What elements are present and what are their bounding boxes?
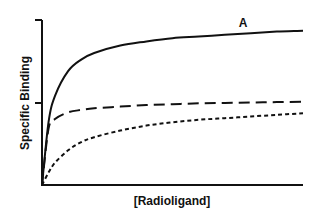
plot-area: [42, 31, 303, 185]
y-axis-label: Specific Binding: [18, 56, 32, 150]
panel-label: A: [239, 16, 248, 30]
x-axis-label: [Radioligand]: [134, 194, 211, 208]
series-short-dash: [42, 113, 303, 185]
series-solid: [42, 31, 303, 185]
binding-chart: A [Radioligand] Specific Binding: [0, 0, 320, 216]
series-long-dash: [42, 102, 303, 185]
